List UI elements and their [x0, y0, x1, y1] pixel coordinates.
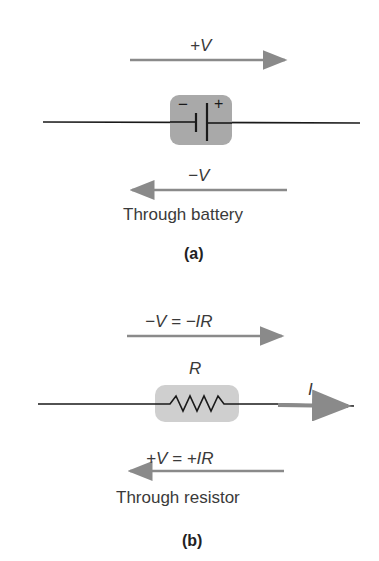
plus-v-label: +V: [190, 36, 211, 56]
sublabel-b: (b): [182, 532, 202, 550]
resistor-label: R: [189, 359, 201, 379]
current-arrow: [278, 405, 348, 406]
minus-v-minus-ir-label: −V = −IR: [145, 312, 213, 332]
caption-through-battery: Through battery: [123, 205, 243, 225]
battery-plus-sign: +: [214, 95, 223, 113]
minus-v-label: −V: [188, 166, 209, 186]
caption-through-resistor: Through resistor: [116, 488, 240, 508]
sublabel-a: (a): [184, 245, 204, 263]
plus-v-plus-ir-label: +V = +IR: [146, 449, 214, 469]
circuit-diagram: [0, 0, 379, 561]
battery-minus-sign: −: [178, 95, 188, 115]
current-label: I: [308, 380, 313, 400]
